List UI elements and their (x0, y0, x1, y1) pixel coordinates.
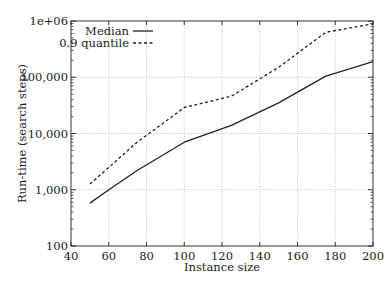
x-tick-label: 180 (324, 249, 346, 263)
x-tick-label: 160 (287, 249, 309, 263)
series-median (90, 62, 373, 204)
x-tick-label: 60 (101, 249, 116, 263)
grid-lines (71, 21, 373, 246)
y-axis-label: Run-time (search steps) (15, 64, 29, 203)
series-0-9-quantile (90, 24, 373, 184)
series-lines (90, 24, 373, 203)
y-tick-label: 1,000 (35, 183, 68, 197)
run-time-chart: 406080100120140160180200 1001,00010,0001… (0, 0, 392, 287)
legend: Median 0.9 quantile (59, 24, 153, 50)
y-tick-label: 10,000 (28, 127, 68, 141)
x-tick-label: 80 (139, 249, 154, 263)
y-tick-label: 100 (46, 239, 68, 253)
legend-label-quantile: 0.9 quantile (59, 36, 129, 50)
x-tick-label: 200 (362, 249, 384, 263)
y-tick-label: 1e+06 (30, 14, 68, 28)
x-axis-label: Instance size (184, 260, 260, 274)
